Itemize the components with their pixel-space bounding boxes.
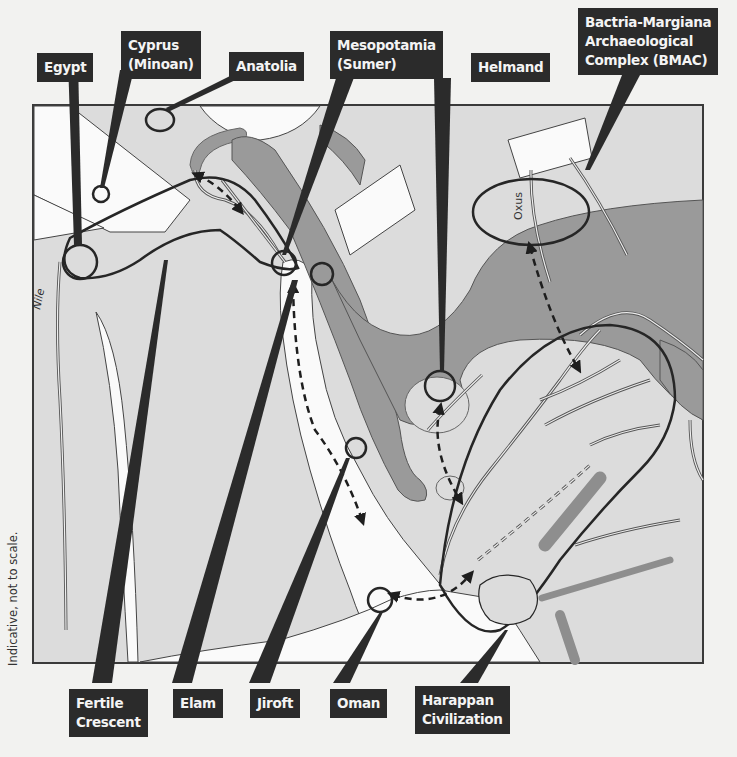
callout-cyprus: Cyprus (Minoan) (121, 31, 201, 79)
callout-helmand: Helmand (471, 53, 550, 82)
callout-oman: Oman (330, 689, 387, 718)
callout-bmac: Bactria-Margiana Archaeological Complex … (578, 8, 718, 75)
callout-anatolia: Anatolia (229, 52, 304, 81)
callout-jiroft: Jiroft (250, 689, 300, 718)
callout-elam: Elam (173, 689, 223, 718)
oxus-label: Oxus (512, 192, 525, 220)
map-diagram: Nile Oxus (0, 0, 737, 757)
callout-egypt: Egypt (37, 53, 93, 82)
scale-note: Indicative, not to scale. (6, 532, 20, 666)
callout-harappan: Harappan Civilization (415, 686, 510, 734)
callout-mesopotamia: Mesopotamia (Sumer) (330, 31, 443, 79)
callout-fertile-crescent: Fertile Crescent (69, 689, 148, 737)
